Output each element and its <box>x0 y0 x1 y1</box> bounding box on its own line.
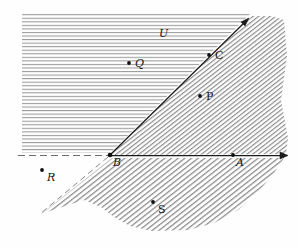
point-r-dot <box>40 168 44 172</box>
point-a-dot <box>231 153 235 157</box>
point-s-dot <box>151 200 155 204</box>
point-c-dot <box>207 53 211 57</box>
figure-canvas <box>0 0 298 248</box>
point-q-dot <box>127 61 131 65</box>
lower-cone-hatch <box>41 158 284 231</box>
lower-cone-region <box>41 158 284 231</box>
point-b-dot <box>108 153 113 158</box>
geometry-figure: U Q C P B A R S <box>0 0 298 248</box>
point-p-dot <box>198 94 202 98</box>
